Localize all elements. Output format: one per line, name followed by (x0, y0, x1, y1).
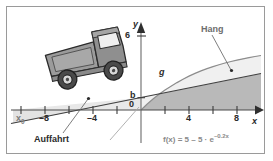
x-axis-label: x (252, 117, 257, 126)
auffahrt-leader-dot (87, 97, 90, 100)
x-tick-label-4: 4 (186, 114, 191, 123)
auffahrt-shaded-region-upper (13, 98, 141, 110)
y-axis-arrow (137, 22, 145, 33)
curve-leader-line (110, 107, 139, 140)
function-formula: f(x) = 5 – 5 · e–0.2x (163, 133, 229, 144)
y-axis-label: y (133, 20, 138, 29)
x-tick-label-8: 8 (234, 114, 239, 123)
x-tick-label-x0: x0 (16, 114, 25, 125)
line-g-label: g (159, 68, 165, 77)
figure-container: y x 6 0 b g x0 –8 –4 4 8 Hang Auffahrt f… (0, 0, 273, 161)
y-intercept-label-b: b (130, 91, 136, 100)
y-tick-label-6: 6 (125, 31, 130, 40)
formula-base: f(x) = 5 – 5 · e (163, 135, 214, 144)
truck-illustration (43, 27, 129, 92)
origin-label: 0 (129, 100, 134, 109)
hang-leader-dot (230, 69, 233, 72)
x0-subscript: 0 (21, 118, 25, 125)
annotation-hang: Hang (201, 25, 224, 34)
formula-exponent: –0.2x (214, 133, 229, 139)
annotation-auffahrt: Auffahrt (34, 135, 69, 144)
x-tick-label-minus4: –4 (87, 114, 97, 123)
x-tick-label-minus8: –8 (39, 114, 49, 123)
